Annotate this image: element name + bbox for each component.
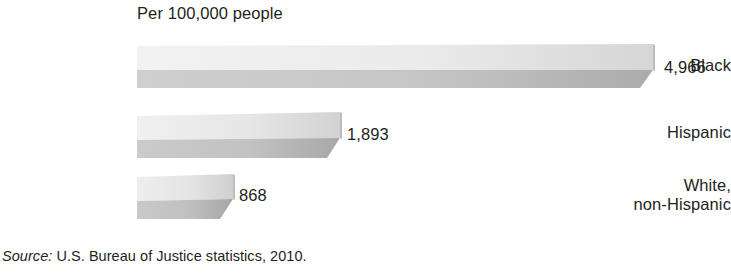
- bar-row-white-non-hispanic: White, non-Hispanic: [0, 173, 731, 231]
- bar-white-non-hispanic: [137, 173, 247, 221]
- category-label-hispanic: Hispanic: [603, 123, 731, 142]
- bar-black-shape: [137, 44, 665, 90]
- bar-hispanic-shape: [137, 112, 352, 160]
- bar-chart-figure: Per 100,000 people Black: [0, 0, 731, 273]
- bar-row-black: Black: [0, 40, 731, 102]
- bar-hispanic: [137, 112, 352, 160]
- source-prefix: Source:: [2, 248, 52, 264]
- source-text: U.S. Bureau of Justice statistics, 2010.: [52, 248, 306, 264]
- value-label-black: 4,966: [664, 58, 706, 77]
- bar-row-hispanic: Hispanic: [0, 112, 731, 167]
- source-note: Source: U.S. Bureau of Justice statistic…: [2, 248, 307, 264]
- chart-title: Per 100,000 people: [137, 4, 283, 23]
- bar-black: [137, 44, 665, 90]
- category-label-white-line2: non-Hispanic: [603, 195, 731, 214]
- plot-area: Black: [0, 40, 731, 235]
- bar-white-non-hispanic-shape: [137, 173, 247, 221]
- category-label-white-line1: White,: [603, 176, 731, 195]
- category-label-white-non-hispanic: White, non-Hispanic: [603, 176, 731, 214]
- value-label-white-non-hispanic: 868: [239, 186, 267, 205]
- category-label-hispanic-line1: Hispanic: [667, 123, 731, 141]
- value-label-hispanic: 1,893: [347, 125, 389, 144]
